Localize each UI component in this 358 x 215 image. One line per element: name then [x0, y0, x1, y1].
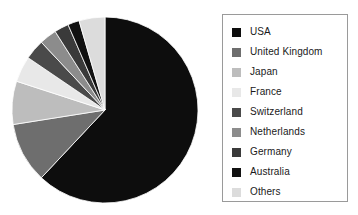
- legend-item[interactable]: Switzerland: [223, 102, 347, 122]
- legend-swatch-icon: [232, 168, 241, 177]
- legend-item[interactable]: Others: [223, 182, 347, 202]
- legend-item-label: Germany: [250, 147, 292, 157]
- legend-item[interactable]: France: [223, 82, 347, 102]
- legend-swatch-icon: [232, 28, 241, 37]
- legend-swatch-icon: [232, 188, 241, 197]
- legend-item-label: United Kingdom: [250, 47, 323, 57]
- legend-swatch-icon: [232, 48, 241, 57]
- legend-swatch-icon: [232, 148, 241, 157]
- legend-swatch-icon: [232, 88, 241, 97]
- legend-item-label: USA: [250, 27, 271, 37]
- legend-item[interactable]: USA: [223, 22, 347, 42]
- legend-item[interactable]: Australia: [223, 162, 347, 182]
- chart-legend: USAUnited KingdomJapanFranceSwitzerlandN…: [222, 14, 348, 202]
- legend-swatch-icon: [232, 68, 241, 77]
- legend-item[interactable]: Japan: [223, 62, 347, 82]
- legend-item[interactable]: Germany: [223, 142, 347, 162]
- legend-item-label: Netherlands: [250, 127, 305, 137]
- legend-item-label: Australia: [250, 167, 290, 177]
- legend-swatch-icon: [232, 108, 241, 117]
- legend-item-label: Japan: [250, 67, 278, 77]
- legend-swatch-icon: [232, 128, 241, 137]
- legend-item-label: Switzerland: [250, 107, 303, 117]
- legend-item[interactable]: United Kingdom: [223, 42, 347, 62]
- legend-item[interactable]: Netherlands: [223, 122, 347, 142]
- pie-svg: [0, 0, 212, 215]
- pie-plot-area: [0, 0, 212, 215]
- pie-chart-figure: USAUnited KingdomJapanFranceSwitzerlandN…: [0, 0, 358, 215]
- legend-item-label: France: [250, 87, 282, 97]
- legend-item-label: Others: [250, 187, 281, 197]
